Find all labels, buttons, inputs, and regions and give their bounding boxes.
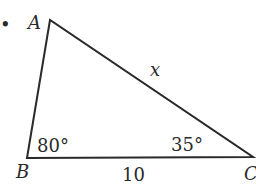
triangle-diagram: • A B C 80° 35° x 10 xyxy=(0,0,256,187)
side-label-ac: x xyxy=(150,59,160,80)
vertex-label-a: A xyxy=(26,12,41,33)
angle-label-b: 80° xyxy=(37,135,69,156)
vertex-label-c: C xyxy=(244,163,256,184)
angle-label-c: 35° xyxy=(171,134,203,155)
side-label-bc: 10 xyxy=(122,164,145,185)
vertex-label-b: B xyxy=(15,161,29,182)
bullet-marker: • xyxy=(0,14,11,35)
